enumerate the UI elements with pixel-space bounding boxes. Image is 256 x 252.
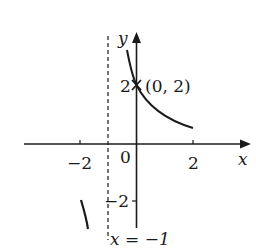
- y-axis-label: y: [117, 28, 128, 48]
- point-label: (0, 2): [145, 76, 191, 96]
- y-tick-label-neg2: −2: [104, 191, 129, 211]
- x-tick-label-neg2: −2: [67, 153, 92, 173]
- y-axis-arrow-icon: [132, 32, 141, 43]
- origin-label: 0: [120, 147, 131, 167]
- asymptote-label: x = −1: [110, 229, 170, 249]
- curve-lower-branch: [81, 200, 88, 229]
- x-axis-arrow-icon: [240, 140, 251, 149]
- graph-figure: y x 0 −2 2 2 −2 (0, 2) x = −1: [0, 0, 256, 252]
- x-tick-label-2: 2: [188, 153, 199, 173]
- x-axis-label: x: [238, 149, 248, 169]
- y-tick-label-2: 2: [120, 76, 131, 96]
- plot-canvas: y x 0 −2 2 2 −2 (0, 2) x = −1: [0, 0, 256, 252]
